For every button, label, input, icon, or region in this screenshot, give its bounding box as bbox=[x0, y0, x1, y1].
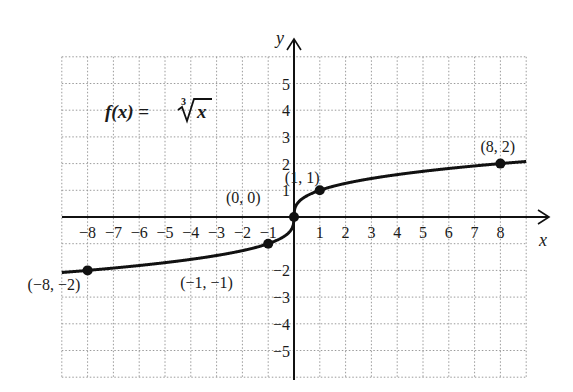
y-tick-label: −5 bbox=[273, 343, 290, 360]
point-label: (8, 2) bbox=[480, 138, 515, 156]
y-tick-label: −2 bbox=[273, 262, 290, 279]
point-label: (0, 0) bbox=[226, 189, 261, 207]
x-tick-label: 4 bbox=[393, 224, 401, 241]
point-label: (−8, −2) bbox=[28, 276, 81, 294]
x-axis-label: x bbox=[538, 230, 547, 250]
x-tick-label: 7 bbox=[471, 224, 479, 241]
y-axis-label: y bbox=[274, 28, 284, 48]
data-point bbox=[289, 212, 299, 222]
data-point bbox=[83, 265, 93, 275]
x-tick-label: −7 bbox=[105, 224, 122, 241]
axes: x y bbox=[62, 28, 549, 380]
data-point bbox=[315, 185, 325, 195]
point-label: (1, 1) bbox=[285, 169, 320, 187]
x-tick-label: −4 bbox=[182, 224, 199, 241]
y-tick-label: 3 bbox=[282, 129, 290, 146]
y-tick-label: −4 bbox=[273, 316, 290, 333]
x-tick-label: 8 bbox=[496, 224, 504, 241]
data-point bbox=[495, 159, 505, 169]
point-label: (−1, −1) bbox=[180, 274, 233, 292]
root-index: 3 bbox=[181, 96, 186, 107]
x-tick-label: 5 bbox=[419, 224, 427, 241]
x-tick-label: −5 bbox=[156, 224, 173, 241]
x-tick-label: −2 bbox=[234, 224, 251, 241]
y-tick-label: −3 bbox=[273, 289, 290, 306]
function-lhs: f(x) = bbox=[105, 101, 149, 123]
y-tick-label: 4 bbox=[282, 102, 290, 119]
svg-text:f(x) =: f(x) = bbox=[105, 101, 149, 123]
cube-root-chart: x y −8−7−6−5−4−3−2−112345678 54321−2−3−4… bbox=[0, 0, 573, 392]
function-label: f(x) = 3 x bbox=[105, 96, 212, 123]
x-tick-label: 1 bbox=[316, 224, 324, 241]
x-tick-label: 6 bbox=[445, 224, 453, 241]
x-tick-label: −1 bbox=[260, 224, 277, 241]
x-tick-label: −6 bbox=[131, 224, 148, 241]
y-tick-label: 5 bbox=[282, 76, 290, 93]
x-tick-label: 2 bbox=[342, 224, 350, 241]
radicand: x bbox=[196, 101, 207, 122]
data-point bbox=[263, 239, 273, 249]
x-tick-label: −8 bbox=[79, 224, 96, 241]
x-tick-label: 3 bbox=[367, 224, 375, 241]
x-tick-label: −3 bbox=[208, 224, 225, 241]
